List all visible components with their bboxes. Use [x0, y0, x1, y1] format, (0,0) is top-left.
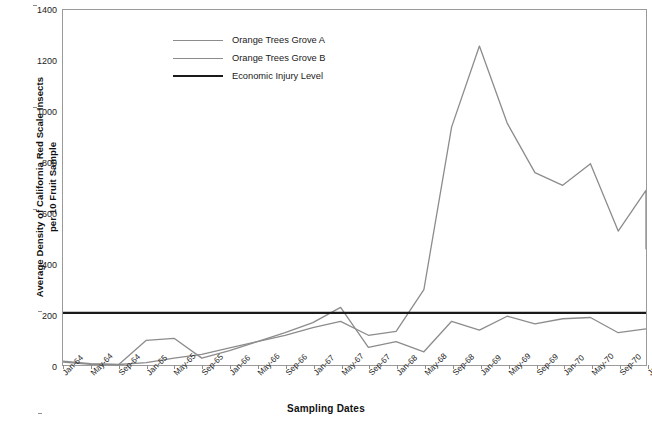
- legend-item-3[interactable]: Economic Injury Level: [173, 68, 326, 84]
- legend-swatch-line: [173, 58, 223, 59]
- y-axis-tick-mark: [33, 209, 37, 210]
- y-axis-tick-label: 1200: [37, 56, 63, 66]
- y-axis-tick-mark: [38, 311, 42, 312]
- y-axis-title: Average Density of California Red Scale …: [33, 37, 59, 337]
- y-axis-tick-mark: [33, 5, 37, 6]
- plot-area: Orange Trees Grove AOrange Trees Grove B…: [62, 9, 647, 366]
- legend-item-label: Orange Trees Grove A: [232, 35, 325, 45]
- legend-swatch-line: [173, 75, 223, 77]
- legend-swatch-line: [173, 40, 223, 41]
- y-axis-tick-label: 1000: [37, 107, 63, 117]
- legend-item-label: Economic Injury Level: [232, 71, 323, 81]
- y-axis-tick-label: 600: [42, 209, 63, 219]
- x-axis-tick-label: Jan-71: [646, 353, 652, 377]
- legend-item-2[interactable]: Orange Trees Grove B: [173, 50, 326, 66]
- y-axis-title-line-1: Average Density of California Red Scale …: [33, 37, 46, 337]
- legend-item-label: Orange Trees Grove B: [232, 53, 326, 63]
- y-axis-tick-label: 1400: [37, 5, 63, 15]
- series-line-1: [63, 46, 646, 364]
- legend-item-1[interactable]: Orange Trees Grove A: [173, 32, 326, 48]
- y-axis-title-line-2: per 10 Fruit Sample: [46, 37, 59, 337]
- y-axis-tick-label: 800: [42, 158, 63, 168]
- y-axis-tick-label: 400: [42, 260, 63, 270]
- chart-svg: [63, 10, 646, 366]
- series-layer: [63, 10, 646, 365]
- y-axis-tick-mark: [33, 107, 37, 108]
- chart-legend: Orange Trees Grove AOrange Trees Grove B…: [173, 32, 326, 86]
- y-axis-tick-label: 200: [42, 311, 63, 321]
- chart-root: Average Density of California Red Scale …: [0, 0, 652, 424]
- x-axis-title: Sampling Dates: [0, 403, 652, 414]
